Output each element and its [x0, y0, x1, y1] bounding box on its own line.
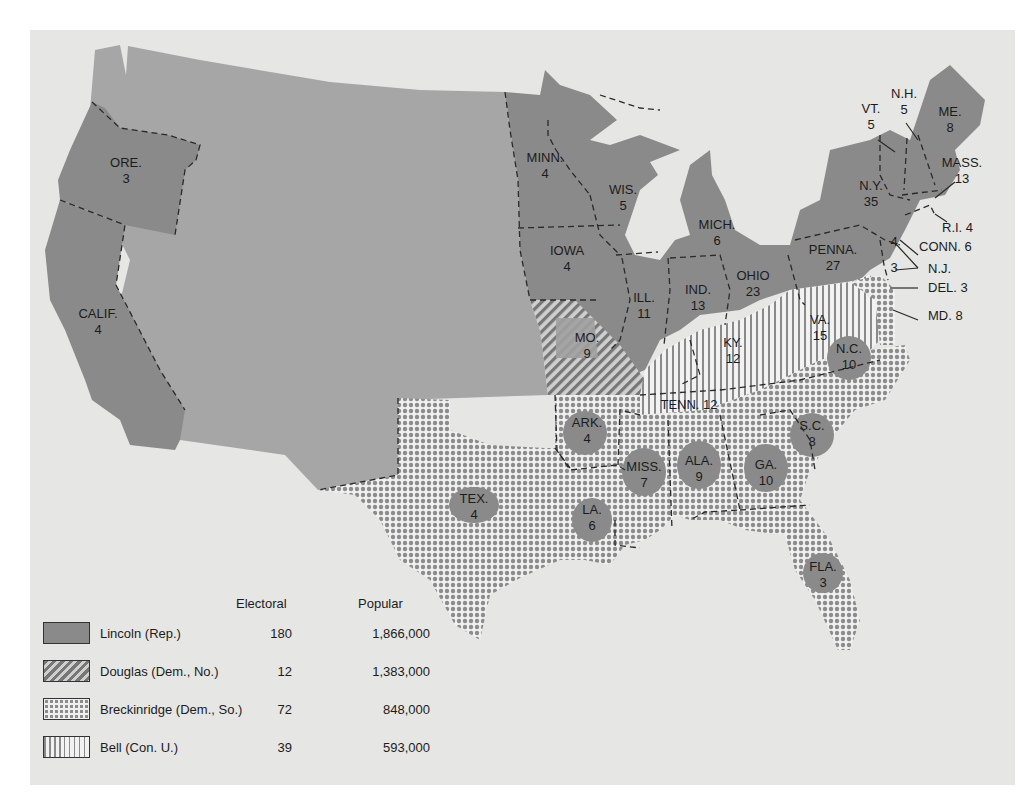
label-ark: ARK.	[572, 415, 602, 430]
legend-candidate: Douglas (Dem., No.)	[100, 664, 218, 679]
legend-row-bell: Bell (Con. U.) 39 593,000	[40, 732, 440, 770]
label-ohio-votes: 23	[746, 284, 760, 299]
label-sc: S.C.	[799, 418, 824, 433]
label-ill-votes: 11	[637, 306, 651, 321]
legend-row-breckinridge: Breckinridge (Dem., So.) 72 848,000	[40, 694, 440, 732]
legend-header-electoral: Electoral	[236, 596, 287, 611]
solid-swatch-icon	[43, 622, 90, 644]
label-va: VA.	[810, 312, 830, 327]
label-penna-votes: 27	[826, 258, 840, 273]
legend-row-lincoln: Lincoln (Rep.) 180 1,866,000	[40, 618, 440, 656]
label-ga: GA.	[755, 457, 777, 472]
label-me: ME.	[938, 104, 961, 119]
label-la-votes: 6	[588, 518, 595, 533]
label-miss: MISS.	[626, 459, 661, 474]
legend-electoral: 72	[230, 702, 292, 717]
stripes-swatch-icon	[43, 736, 90, 758]
label-vt-votes: 5	[867, 117, 874, 132]
label-md: MD. 8	[928, 308, 963, 323]
label-ind-votes: 13	[691, 298, 705, 313]
legend-popular: 1,383,000	[330, 664, 430, 679]
label-ny: N.Y.	[859, 178, 883, 193]
label-iowa-votes: 4	[563, 259, 570, 274]
label-ohio: OHIO	[736, 268, 769, 283]
label-calif: CALIF.	[78, 306, 117, 321]
label-penna: PENNA.	[809, 242, 857, 257]
label-mass-votes: 13	[955, 171, 969, 186]
legend: Electoral Popular Lincoln (Rep.) 180 1,8…	[40, 596, 440, 770]
label-tenn: TENN. 12	[660, 397, 717, 412]
label-sc-votes: 8	[808, 434, 815, 449]
legend-popular: 593,000	[330, 740, 430, 755]
legend-candidate: Lincoln (Rep.)	[100, 626, 181, 641]
label-nj-lincoln: 4	[890, 234, 897, 249]
label-ark-votes: 4	[583, 431, 590, 446]
label-ny-votes: 35	[864, 194, 878, 209]
label-minn-votes: 4	[541, 166, 548, 181]
label-ri: R.I. 4	[942, 220, 973, 235]
label-mich: MICH.	[699, 217, 736, 232]
label-ala-votes: 9	[695, 469, 702, 484]
label-mo: MO.	[575, 330, 600, 345]
label-me-votes: 8	[946, 120, 953, 135]
legend-header-popular: Popular	[358, 596, 403, 611]
legend-electoral: 39	[230, 740, 292, 755]
label-minn: MINN.	[527, 150, 564, 165]
legend-candidate: Bell (Con. U.)	[100, 740, 178, 755]
label-iowa: IOWA	[550, 243, 585, 258]
label-ala: ALA.	[685, 453, 713, 468]
label-nj-douglas: 3	[890, 260, 897, 275]
legend-candidate: Breckinridge (Dem., So.)	[100, 702, 242, 717]
label-va-votes: 15	[813, 328, 827, 343]
label-nh-votes: 5	[900, 102, 907, 117]
label-mich-votes: 6	[713, 233, 720, 248]
legend-header: Electoral Popular	[40, 596, 440, 618]
label-calif-votes: 4	[94, 322, 101, 337]
label-wis-votes: 5	[619, 198, 626, 213]
label-ky: KY.	[723, 335, 742, 350]
legend-electoral: 180	[230, 626, 292, 641]
label-conn: CONN. 6	[919, 239, 972, 254]
legend-row-douglas: Douglas (Dem., No.) 12 1,383,000	[40, 656, 440, 694]
label-ky-votes: 12	[726, 351, 740, 366]
label-ind: IND.	[685, 282, 711, 297]
label-nh: N.H.	[891, 86, 917, 101]
hatch-swatch-icon	[43, 660, 90, 682]
label-ga-votes: 10	[759, 473, 773, 488]
label-del: DEL. 3	[928, 280, 968, 295]
label-nc-votes: 10	[842, 357, 856, 372]
legend-popular: 1,866,000	[330, 626, 430, 641]
label-mass: MASS.	[942, 155, 982, 170]
label-mo-votes: 9	[583, 346, 590, 361]
label-miss-votes: 7	[640, 475, 647, 490]
label-nc: N.C.	[836, 341, 862, 356]
label-ore: ORE.	[110, 155, 142, 170]
legend-popular: 848,000	[330, 702, 430, 717]
label-ore-votes: 3	[122, 171, 129, 186]
label-wis: WIS.	[609, 182, 637, 197]
label-vt: VT.	[862, 101, 881, 116]
label-nj: N.J.	[928, 261, 951, 276]
label-fla: FLA.	[809, 559, 836, 574]
dots-swatch-icon	[43, 698, 90, 720]
legend-electoral: 12	[230, 664, 292, 679]
label-tex: TEX.	[460, 491, 489, 506]
label-tex-votes: 4	[470, 507, 477, 522]
label-la: LA.	[582, 502, 602, 517]
label-fla-votes: 3	[819, 575, 826, 590]
label-ill: ILL.	[633, 290, 655, 305]
